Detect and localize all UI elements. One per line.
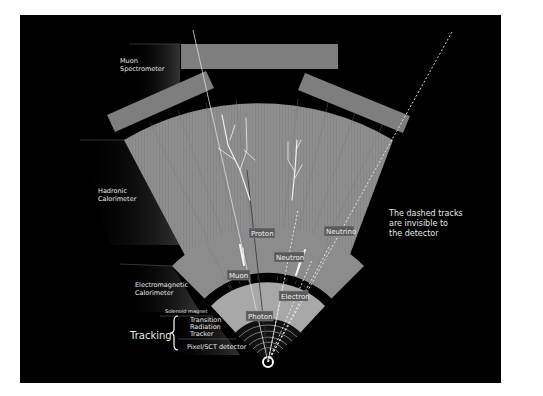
trt-label-3: Tracker xyxy=(189,330,214,338)
svg-text:Neutrino: Neutrino xyxy=(326,228,356,236)
note-line-1: The dashed tracks xyxy=(388,209,463,218)
particle-label-muon: Muon xyxy=(227,270,250,280)
pixel-sct-detector xyxy=(235,319,301,362)
em-calorimeter-label-2: Calorimeter xyxy=(135,289,174,297)
muon-spectrometer-label-1: Muon xyxy=(120,57,138,65)
particle-label-photon: Photon xyxy=(246,311,273,321)
particle-label-electron: Electron xyxy=(279,291,310,301)
muon-spectrometer-label-2: Spectrometer xyxy=(120,65,165,73)
hadronic-calorimeter-label-2: Calorimeter xyxy=(98,195,137,203)
note-line-2: are invisible to xyxy=(389,219,448,228)
svg-text:Neutron: Neutron xyxy=(276,254,304,262)
solenoid-magnet-label: Solenoid magnet xyxy=(165,308,207,315)
tracking-label: Tracking xyxy=(129,330,172,341)
particle-label-proton: Proton xyxy=(249,228,275,238)
svg-text:Muon: Muon xyxy=(229,272,248,280)
note-line-3: the detector xyxy=(389,229,439,238)
em-calorimeter-label-1: Electromagnetic xyxy=(135,281,188,289)
hadronic-calorimeter-label-1: Hadronic xyxy=(98,187,127,195)
svg-text:Proton: Proton xyxy=(251,230,274,238)
pixel-sct-label: Pixel/SCT detector xyxy=(187,343,247,351)
particle-label-neutrino: Neutrino xyxy=(324,226,356,236)
svg-text:Photon: Photon xyxy=(248,313,272,321)
detector-diagram: Muon Spectrometer Hadronic Calorimeter E… xyxy=(0,0,543,396)
svg-text:Electron: Electron xyxy=(281,293,310,301)
particle-label-neutron: Neutron xyxy=(274,252,304,262)
